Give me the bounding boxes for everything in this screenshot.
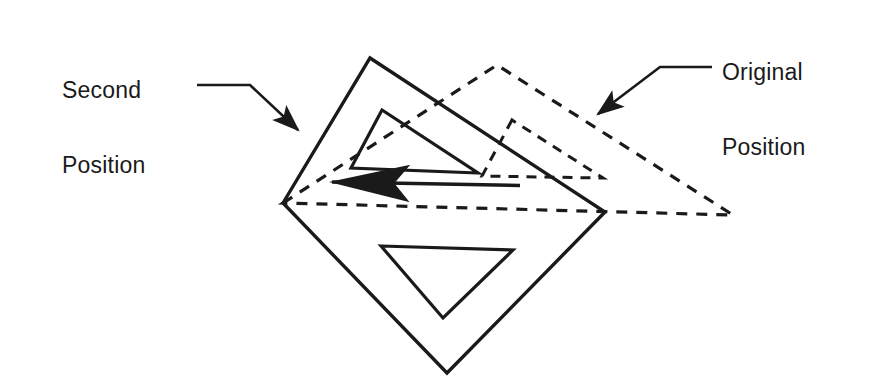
diagram-canvas: Second Position Original Position	[0, 0, 891, 389]
label-original-position-line1: Original	[722, 60, 805, 85]
label-second-position-line1: Second	[62, 78, 145, 103]
second-position-inner-lower-triangle	[381, 246, 513, 318]
rotation-motion-arrow	[332, 182, 520, 186]
label-second-position: Second Position	[62, 28, 145, 228]
label-original-position-line2: Position	[722, 135, 805, 160]
original-position-leader-line	[598, 67, 712, 114]
second-position-leader-line	[197, 85, 298, 130]
second-position-inner-upper-triangle	[351, 110, 478, 173]
label-second-position-line2: Position	[62, 153, 145, 178]
second-position-triangle	[283, 58, 605, 373]
label-original-position: Original Position	[722, 10, 805, 210]
